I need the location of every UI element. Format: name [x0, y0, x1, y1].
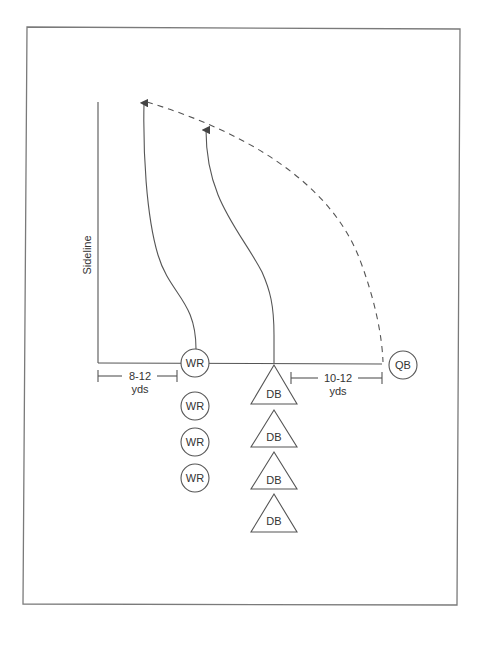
- db-player: DB: [251, 410, 297, 447]
- qb-distance-value: 10-12: [324, 372, 352, 384]
- scrimmage-line: [98, 363, 382, 364]
- pass-trajectory: [147, 102, 383, 362]
- svg-text:WR: WR: [186, 436, 204, 448]
- wr-player: WR: [181, 464, 209, 492]
- svg-text:DB: DB: [266, 388, 281, 400]
- svg-text:DB: DB: [266, 431, 281, 443]
- qb-distance-marker: 10-12 yds: [291, 372, 382, 397]
- svg-text:WR: WR: [186, 472, 204, 484]
- svg-text:WR: WR: [186, 357, 204, 369]
- qb-player: QB: [389, 351, 417, 379]
- db-route: [206, 130, 274, 363]
- svg-text:DB: DB: [266, 515, 281, 527]
- qb-distance-unit: yds: [329, 385, 347, 397]
- svg-text:DB: DB: [266, 474, 281, 486]
- wr-distance-marker: 8-12 yds: [98, 370, 177, 395]
- wr-distance-unit: yds: [131, 383, 149, 395]
- drill-diagram: Sideline 8-12 yds 10-12 yds QB WR WR W: [0, 0, 484, 646]
- qb-label: QB: [395, 359, 411, 371]
- sideline-label: Sideline: [81, 235, 93, 274]
- wr-route: [144, 103, 196, 349]
- wr-player: WR: [181, 428, 209, 456]
- db-player: DB: [251, 494, 297, 532]
- wr-player: WR: [181, 349, 209, 377]
- wr-player: WR: [181, 392, 209, 420]
- page-frame: [23, 27, 460, 605]
- svg-text:WR: WR: [186, 400, 204, 412]
- wr-distance-value: 8-12: [129, 370, 151, 382]
- db-player: DB: [251, 365, 297, 404]
- db-player: DB: [251, 452, 297, 489]
